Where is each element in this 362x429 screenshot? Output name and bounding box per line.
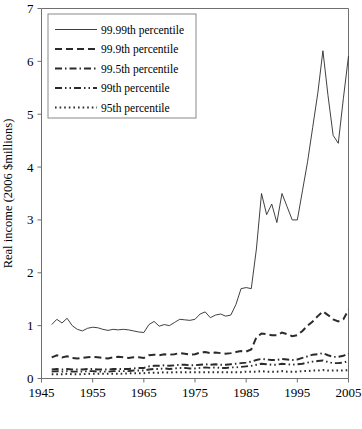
legend-label-4: 99th percentile <box>101 82 170 95</box>
y-axis-title-label: Real income (2006 $millions) <box>1 119 15 269</box>
x-tick-label: 1995 <box>284 385 310 400</box>
x-tick-label: 1985 <box>233 385 259 400</box>
legend-label-3: 99.5th percentile <box>101 63 178 76</box>
y-tick-label: 4 <box>27 160 34 175</box>
x-tick-label: 2005 <box>336 385 362 400</box>
chart-legend: 99.99th percentile99.9th percentile99.5t… <box>48 14 196 118</box>
y-axis-title: Real income (2006 $millions) <box>1 119 15 269</box>
y-tick-label: 1 <box>27 318 34 333</box>
y-axis-ticks: 01234567 <box>27 1 42 386</box>
legend-label-5: 95th percentile <box>101 102 170 115</box>
x-tick-label: 1965 <box>131 385 157 400</box>
legend-label-1: 99.99th percentile <box>101 24 184 37</box>
x-axis-ticks: 1945195519651975198519952005 <box>29 379 362 400</box>
x-tick-label: 1975 <box>182 385 208 400</box>
y-tick-label: 2 <box>27 265 34 280</box>
x-tick-label: 1955 <box>80 385 106 400</box>
series-line-2 <box>52 310 349 359</box>
x-tick-label: 1945 <box>29 385 55 400</box>
legend-label-2: 99.9th percentile <box>101 43 178 56</box>
chart-container: 01234567 1945195519651975198519952005 Re… <box>0 0 362 429</box>
y-tick-label: 7 <box>27 1 34 16</box>
income-percentile-line-chart: 01234567 1945195519651975198519952005 Re… <box>0 0 362 429</box>
y-tick-label: 3 <box>27 212 34 227</box>
y-tick-label: 5 <box>27 107 34 122</box>
y-tick-label: 6 <box>27 54 34 69</box>
